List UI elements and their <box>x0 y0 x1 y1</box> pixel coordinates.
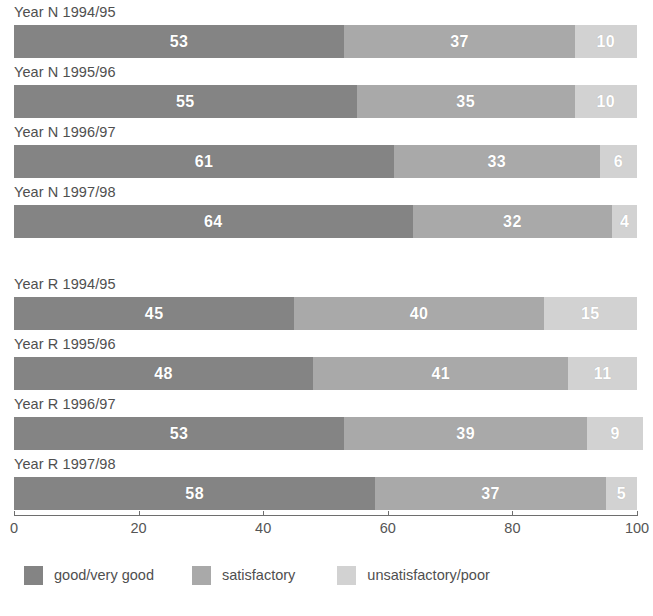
x-axis-tick-label: 40 <box>255 520 271 536</box>
bar-segment-value: 5 <box>617 485 626 503</box>
legend-label: unsatisfactory/poor <box>367 567 490 583</box>
bar-row: Year R 1996/9753399 <box>14 396 637 452</box>
bar-segment-unsatis: 4 <box>612 205 637 238</box>
bar-segment-value: 48 <box>154 365 173 383</box>
x-axis-tick <box>388 511 389 516</box>
bar-segment-satis: 37 <box>344 25 575 58</box>
bar-segment-unsatis: 10 <box>575 25 637 58</box>
bar-segment-good: 53 <box>14 417 344 450</box>
bar-row-label: Year R 1996/97 <box>14 396 116 412</box>
bar-segment-value: 6 <box>614 153 623 171</box>
bar-segment-value: 10 <box>597 93 616 111</box>
bar-track: 64324 <box>14 205 637 238</box>
bar-segment-unsatis: 15 <box>544 297 637 330</box>
bar-segment-value: 10 <box>597 33 616 51</box>
bar-segment-value: 61 <box>195 153 214 171</box>
bar-track: 533710 <box>14 25 637 58</box>
legend-item-good[interactable]: good/very good <box>24 566 154 585</box>
x-axis-tick <box>263 511 264 516</box>
x-axis-tick-label: 60 <box>380 520 396 536</box>
x-axis-tick-label: 80 <box>504 520 520 536</box>
bar-segment-value: 53 <box>170 425 189 443</box>
bar-segment-satis: 33 <box>394 145 600 178</box>
legend-swatch-satis <box>192 566 211 585</box>
legend-swatch-good <box>24 566 43 585</box>
bar-segment-value: 58 <box>185 485 204 503</box>
bar-segment-unsatis: 11 <box>568 357 637 390</box>
x-axis-tick-label: 100 <box>625 520 649 536</box>
bar-segment-value: 64 <box>204 213 223 231</box>
plot-area: Year N 1994/95533710Year N 1995/96553510… <box>14 0 637 500</box>
x-axis-tick <box>637 511 638 516</box>
bar-segment-unsatis: 10 <box>575 85 637 118</box>
x-axis-line <box>14 515 637 516</box>
bar-track: 454015 <box>14 297 637 330</box>
bar-segment-value: 37 <box>450 33 469 51</box>
bar-row-label: Year R 1995/96 <box>14 336 116 352</box>
bar-row-label: Year N 1997/98 <box>14 184 116 200</box>
bar-track: 484111 <box>14 357 637 390</box>
bar-segment-value: 37 <box>481 485 500 503</box>
bar-segment-good: 48 <box>14 357 313 390</box>
bar-segment-value: 39 <box>456 425 475 443</box>
bar-row: Year R 1994/95454015 <box>14 276 637 332</box>
bar-track: 61336 <box>14 145 637 178</box>
legend-item-unsatis[interactable]: unsatisfactory/poor <box>337 566 490 585</box>
bar-track: 58375 <box>14 477 637 510</box>
x-axis-tick <box>139 511 140 516</box>
bar-segment-value: 41 <box>431 365 450 383</box>
bar-row-label: Year N 1995/96 <box>14 64 116 80</box>
bar-segment-good: 58 <box>14 477 375 510</box>
chart-legend: good/very goodsatisfactoryunsatisfactory… <box>24 563 490 587</box>
bar-segment-satis: 39 <box>344 417 587 450</box>
bar-row: Year N 1996/9761336 <box>14 124 637 180</box>
bar-segment-value: 9 <box>611 425 620 443</box>
x-axis-tick-label: 0 <box>10 520 18 536</box>
x-axis-tick <box>512 511 513 516</box>
bar-segment-satis: 40 <box>294 297 543 330</box>
bar-segment-value: 45 <box>145 305 164 323</box>
bar-segment-satis: 32 <box>413 205 612 238</box>
stacked-bar-chart: Year N 1994/95533710Year N 1995/96553510… <box>0 0 653 616</box>
bar-segment-value: 33 <box>488 153 507 171</box>
legend-label: good/very good <box>54 567 154 583</box>
bar-segment-satis: 41 <box>313 357 568 390</box>
bar-row-label: Year R 1994/95 <box>14 276 116 292</box>
bar-segment-value: 35 <box>456 93 475 111</box>
bar-track: 53399 <box>14 417 637 450</box>
bar-segment-unsatis: 9 <box>587 417 643 450</box>
legend-label: satisfactory <box>222 567 295 583</box>
x-axis-tick <box>14 511 15 516</box>
bar-segment-good: 55 <box>14 85 357 118</box>
bar-row: Year N 1997/9864324 <box>14 184 637 240</box>
bar-row-label: Year R 1997/98 <box>14 456 116 472</box>
bar-segment-value: 53 <box>170 33 189 51</box>
bar-row: Year N 1995/96553510 <box>14 64 637 120</box>
bar-segment-good: 64 <box>14 205 413 238</box>
bar-segment-value: 32 <box>503 213 522 231</box>
bar-segment-good: 53 <box>14 25 344 58</box>
bar-segment-satis: 37 <box>375 477 606 510</box>
bar-segment-satis: 35 <box>357 85 575 118</box>
legend-swatch-unsatis <box>337 566 356 585</box>
bar-segment-good: 45 <box>14 297 294 330</box>
bar-track: 553510 <box>14 85 637 118</box>
bar-segment-unsatis: 6 <box>600 145 637 178</box>
bar-segment-good: 61 <box>14 145 394 178</box>
bar-row: Year R 1997/9858375 <box>14 456 637 512</box>
bar-segment-value: 11 <box>594 365 612 383</box>
bar-segment-value: 40 <box>410 305 429 323</box>
bar-segment-value: 55 <box>176 93 195 111</box>
legend-item-satis[interactable]: satisfactory <box>192 566 295 585</box>
bar-segment-unsatis: 5 <box>606 477 637 510</box>
bar-row-label: Year N 1996/97 <box>14 124 116 140</box>
x-axis: 020406080100 <box>14 515 637 555</box>
bar-segment-value: 4 <box>620 213 629 231</box>
bar-row: Year N 1994/95533710 <box>14 4 637 60</box>
bar-row: Year R 1995/96484111 <box>14 336 637 392</box>
x-axis-tick-label: 20 <box>131 520 147 536</box>
bar-segment-value: 15 <box>581 305 600 323</box>
bar-row-label: Year N 1994/95 <box>14 4 116 20</box>
